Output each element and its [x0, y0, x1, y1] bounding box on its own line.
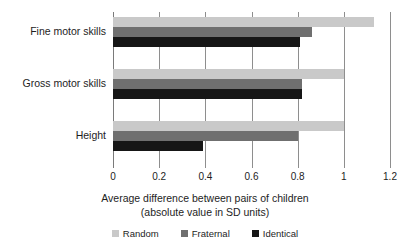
- x-axis-title: Average difference between pairs of chil…: [0, 191, 410, 219]
- legend-swatch-fraternal: [181, 230, 188, 237]
- chart-legend: RandomFraternalIdentical: [0, 228, 410, 239]
- category-label-height: Height: [0, 130, 106, 141]
- x-tick-label-0.4: 0.4: [185, 171, 225, 182]
- x-tick-label-0.6: 0.6: [232, 171, 272, 182]
- x-tick-label-1.2: 1.2: [370, 171, 410, 182]
- legend-swatch-random: [112, 230, 119, 237]
- bar-fraternal-gross-motor-skills: [113, 79, 302, 89]
- bar-fraternal-height: [113, 131, 298, 141]
- x-tick-label-0.8: 0.8: [278, 171, 318, 182]
- bar-random-height: [113, 121, 344, 131]
- legend-swatch-identical: [252, 230, 259, 237]
- legend-label-random: Random: [123, 228, 159, 239]
- x-tick-label-0.2: 0.2: [139, 171, 179, 182]
- legend-label-identical: Identical: [263, 228, 298, 239]
- bar-chart: Fine motor skillsGross motor skillsHeigh…: [0, 0, 410, 251]
- x-axis-title-line-1: Average difference between pairs of chil…: [101, 192, 308, 204]
- legend-item-identical[interactable]: Identical: [252, 228, 298, 239]
- legend-label-fraternal: Fraternal: [192, 228, 230, 239]
- bar-identical-fine-motor-skills: [113, 37, 300, 47]
- gridline-1: [344, 12, 345, 168]
- bar-random-fine-motor-skills: [113, 17, 374, 27]
- bar-fraternal-fine-motor-skills: [113, 27, 312, 37]
- gridline-1.2: [390, 12, 391, 168]
- category-label-gross-motor-skills: Gross motor skills: [0, 78, 106, 89]
- x-tick-label-0: 0: [93, 171, 133, 182]
- bar-identical-height: [113, 141, 203, 151]
- x-tick-label-1: 1: [324, 171, 364, 182]
- category-label-fine-motor-skills: Fine motor skills: [0, 26, 106, 37]
- x-axis-title-line-2: (absolute value in SD units): [0, 205, 410, 219]
- legend-item-random[interactable]: Random: [112, 228, 159, 239]
- legend-item-fraternal[interactable]: Fraternal: [181, 228, 230, 239]
- bar-random-gross-motor-skills: [113, 69, 344, 79]
- plot-area: [113, 12, 390, 168]
- bar-identical-gross-motor-skills: [113, 89, 302, 99]
